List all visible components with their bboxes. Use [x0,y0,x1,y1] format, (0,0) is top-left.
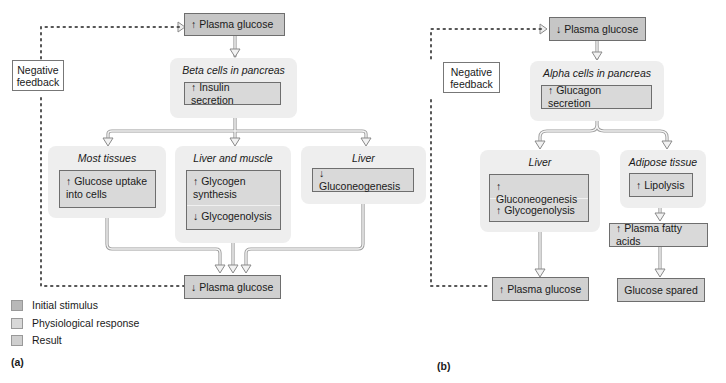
plasma-glucose-increase-result-b: ↑ Plasma glucose [492,277,589,301]
plasma-glucose-increase-box-a: ↑ Plasma glucose [184,13,285,36]
liver-and-muscle-group: Liver and muscle ↑ Glycogen synthesis ↓ … [175,146,291,243]
liver-muscle-box: ↑ Glycogen synthesis ↓ Glycogenolysis [186,170,281,230]
legend-swatch-initial [11,300,23,311]
panel-a-label: (a) [11,356,24,368]
insulin-secretion-box: ↑ Insulin secretion [184,82,281,105]
most-tissues-group: Most tissues ↑ Glucose uptake into cells [48,146,166,218]
plasma-fatty-acids-box: ↑ Plasma fatty acids [609,223,708,247]
panel-b-label: (b) [437,360,450,372]
liver-title-b: Liver [480,156,600,168]
beta-cells-title: Beta cells in pancreas [170,64,297,76]
adipose-tissue-title: Adipose tissue [620,156,706,168]
glucose-spared-box: Glucose spared [617,278,705,302]
negative-feedback-label-a: Negative feedback [12,60,64,91]
gluconeogenesis-decrease-box: ↓ Gluconeogenesis [312,168,414,192]
glycogenolysis-item: ↓ Glycogenolysis [187,206,280,227]
lipolysis-box: ↑ Lipolysis [629,173,693,197]
adipose-tissue-group: Adipose tissue ↑ Lipolysis [620,150,706,208]
glucagon-secretion-box: ↑ Glucagon secretion [541,85,652,109]
legend-label-initial: Initial stimulus [32,299,98,311]
most-tissues-title: Most tissues [48,152,166,164]
plasma-glucose-decrease-box-b: ↓ Plasma glucose [549,17,646,41]
legend-label-response: Physiological response [32,317,139,329]
glucose-regulation-diagram: ↑ Plasma glucose Negative feedback Beta … [0,0,726,383]
legend-swatch-response [11,318,23,329]
liver-group-a: Liver ↓ Gluconeogenesis [301,146,426,204]
liver-b-box: ↑ Gluconeogenesis ↑ Glycogenolysis [489,174,589,222]
glucose-uptake-box: ↑ Glucose uptake into cells [59,170,156,208]
negative-feedback-label-b: Negative feedback [443,62,500,93]
alpha-cells-title: Alpha cells in pancreas [530,67,664,79]
liver-title-a: Liver [301,152,426,164]
gluconeogenesis-item-b: ↑ Gluconeogenesis [490,175,588,199]
plasma-glucose-decrease-result-a: ↓ Plasma glucose [184,275,281,299]
legend-swatch-result [11,335,23,346]
liver-and-muscle-title: Liver and muscle [175,152,291,164]
beta-cells-group: Beta cells in pancreas ↑ Insulin secreti… [170,58,297,118]
liver-group-b: Liver ↑ Gluconeogenesis ↑ Glycogenolysis [480,150,600,232]
alpha-cells-group: Alpha cells in pancreas ↑ Glucagon secre… [530,61,664,121]
legend-label-result: Result [32,334,62,346]
glycogen-synthesis-item: ↑ Glycogen synthesis [187,171,280,206]
